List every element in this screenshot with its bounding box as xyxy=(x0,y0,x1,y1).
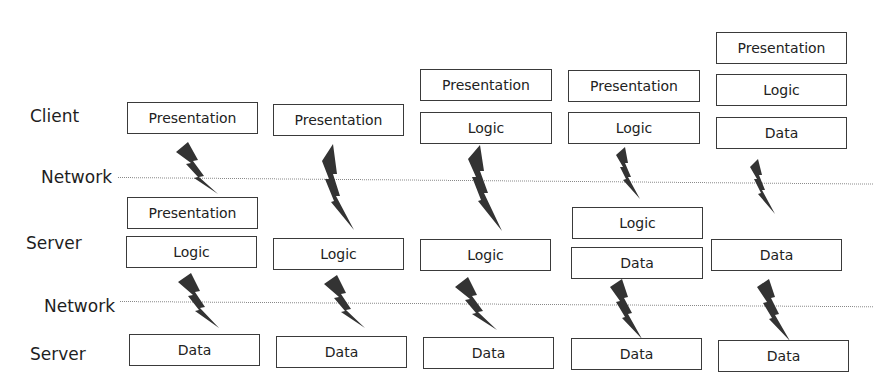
row-label-client: Client xyxy=(30,106,79,126)
column-1-server-presentation-box: Presentation xyxy=(127,197,258,229)
column-2-data-server-data-box: Data xyxy=(276,336,407,368)
column-4-server-logic-box: Logic xyxy=(572,207,703,239)
column-4-client-logic-box: Logic xyxy=(568,112,700,144)
column-3-client-logic-box: Logic xyxy=(420,112,552,144)
lightning-bolt-icon xyxy=(176,142,220,196)
column-3-client-presentation-box: Presentation xyxy=(420,69,552,101)
row-label-server-2: Server xyxy=(30,344,86,364)
column-4-client-presentation-box: Presentation xyxy=(568,70,700,102)
lightning-bolt-icon xyxy=(757,279,791,341)
column-5-client-logic-box: Logic xyxy=(716,74,847,106)
column-2-client-presentation-box: Presentation xyxy=(273,104,404,136)
column-1-client-presentation-box: Presentation xyxy=(127,102,258,134)
row-label-network-1: Network xyxy=(41,167,112,187)
column-1-data-server-data-box: Data xyxy=(129,334,260,366)
lightning-bolt-icon xyxy=(616,147,642,199)
column-5-client-presentation-box: Presentation xyxy=(716,32,847,64)
lightning-bolt-icon xyxy=(750,159,776,215)
column-3-data-server-data-box: Data xyxy=(423,337,554,369)
lightning-bolt-icon xyxy=(468,145,504,231)
column-5-server-data-box: Data xyxy=(711,239,842,271)
column-5-data-server-data-box: Data xyxy=(718,340,849,372)
column-4-data-server-data-box: Data xyxy=(571,338,702,370)
lightning-bolt-icon xyxy=(324,275,366,329)
lightning-bolt-icon xyxy=(322,144,356,230)
lightning-bolt-icon xyxy=(610,279,644,339)
column-2-server-logic-box: Logic xyxy=(273,238,404,270)
column-5-client-data-box: Data xyxy=(716,117,847,149)
lightning-bolt-icon xyxy=(178,273,220,329)
row-label-network-2: Network xyxy=(44,296,115,316)
column-3-server-logic-box: Logic xyxy=(420,239,551,271)
column-4-server-data-box: Data xyxy=(571,247,703,279)
row-label-server-1: Server xyxy=(26,233,82,253)
column-1-server-logic-box: Logic xyxy=(126,236,257,268)
lightning-bolt-icon xyxy=(455,277,499,331)
